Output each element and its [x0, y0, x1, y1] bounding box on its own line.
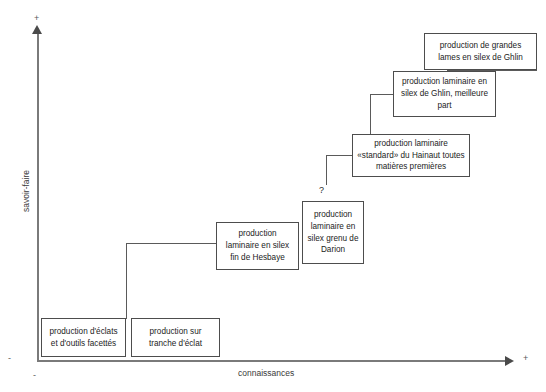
- x-axis-arrow-icon: [505, 356, 514, 366]
- node-label: production sur tranche d'éclat: [136, 326, 215, 350]
- y-axis-plus-sign: +: [34, 14, 39, 23]
- node-production-laminaire-silex-ghlin-meilleure-part[interactable]: production laminaire en silex de Ghlin, …: [393, 71, 496, 117]
- node-label: production de grandes lames en silex de …: [429, 40, 532, 64]
- node-label: production laminaire en silex fin de Hes…: [221, 228, 294, 264]
- x-axis-line: [37, 360, 510, 362]
- node-production-laminaire-standard-hainaut[interactable]: production laminaire «standard» du Haina…: [352, 134, 470, 177]
- node-label: production laminaire «standard» du Haina…: [357, 138, 465, 174]
- node-label: production d'éclats et d'outils facettés: [46, 326, 121, 350]
- connector-hainaut-vertical: [370, 94, 371, 135]
- origin-minus-sign: -: [33, 371, 36, 380]
- connector-darion-vertical: [326, 155, 327, 185]
- node-production-laminaire-silex-fin-hesbaye[interactable]: production laminaire en silex fin de Hes…: [216, 222, 299, 270]
- y-axis-line: [37, 32, 39, 362]
- y-axis-label: savoir-faire: [21, 156, 31, 226]
- uncertainty-question-mark: ?: [319, 186, 324, 195]
- node-label: production laminaire en silex grenu de D…: [307, 209, 359, 257]
- y-axis-arrow-icon: [32, 25, 42, 34]
- x-axis-plus-sign: +: [523, 354, 528, 363]
- node-label: production laminaire en silex de Ghlin, …: [398, 76, 491, 112]
- connector-bottom-vertical: [126, 243, 127, 319]
- node-production-eclats-outils-facettes[interactable]: production d'éclats et d'outils facettés: [41, 318, 126, 357]
- connector-bottom-horizontal: [126, 243, 216, 244]
- x-axis-label: connaissances: [238, 368, 294, 378]
- node-production-sur-tranche-eclat[interactable]: production sur tranche d'éclat: [131, 318, 220, 357]
- connector-darion-horizontal: [326, 155, 353, 156]
- node-production-laminaire-silex-grenu-darion[interactable]: production laminaire en silex grenu de D…: [302, 201, 364, 264]
- node-production-grandes-lames-silex-ghlin[interactable]: production de grandes lames en silex de …: [424, 33, 537, 70]
- x-axis-minus-sign: -: [8, 354, 11, 363]
- diagram-canvas: + - + - savoir-faire connaissances ? pro…: [0, 0, 546, 392]
- connector-hainaut-horizontal: [370, 94, 394, 95]
